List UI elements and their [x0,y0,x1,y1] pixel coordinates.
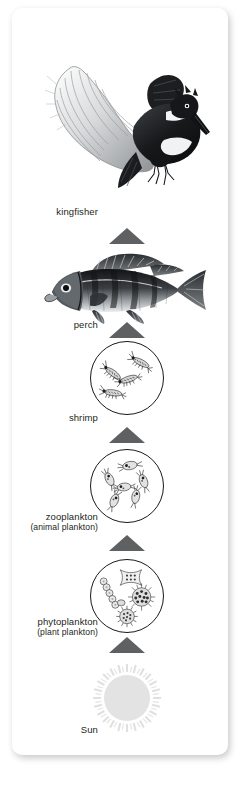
sun-illustration [90,661,164,735]
label-zooplankton-text: zooplankton [46,511,98,522]
label-phytoplankton-sub: (plant plankton) [12,627,98,638]
kingfisher-illustration [38,40,210,210]
label-sun: Sun [12,724,98,735]
label-shrimp-text: shrimp [69,412,98,423]
label-kingfisher: kingfisher [12,206,98,217]
label-phytoplankton: phytoplankton (plant plankton) [12,616,98,638]
perch-fish-illustration [38,248,208,326]
arrow-sun-to-phytoplankton [109,637,145,653]
phytoplankton-circle-illustration [90,559,164,633]
zooplankton-circle-illustration [90,449,164,523]
arrow-zooplankton-to-shrimp [109,427,145,443]
label-phytoplankton-text: phytoplankton [38,616,98,627]
arrow-perch-to-kingfisher [109,228,145,244]
shrimp-circle-illustration [90,341,164,415]
arrow-phytoplankton-to-zooplankton [109,535,145,551]
label-perch: perch [12,319,98,330]
label-shrimp: shrimp [12,412,98,423]
label-zooplankton-sub: (animal plankton) [12,522,98,533]
label-sun-text: Sun [81,724,98,735]
label-perch-text: perch [74,319,98,330]
diagram-card: kingfisher [12,8,228,755]
arrow-shrimp-to-perch [109,322,145,338]
label-kingfisher-text: kingfisher [56,206,98,217]
label-zooplankton: zooplankton (animal plankton) [12,511,98,533]
